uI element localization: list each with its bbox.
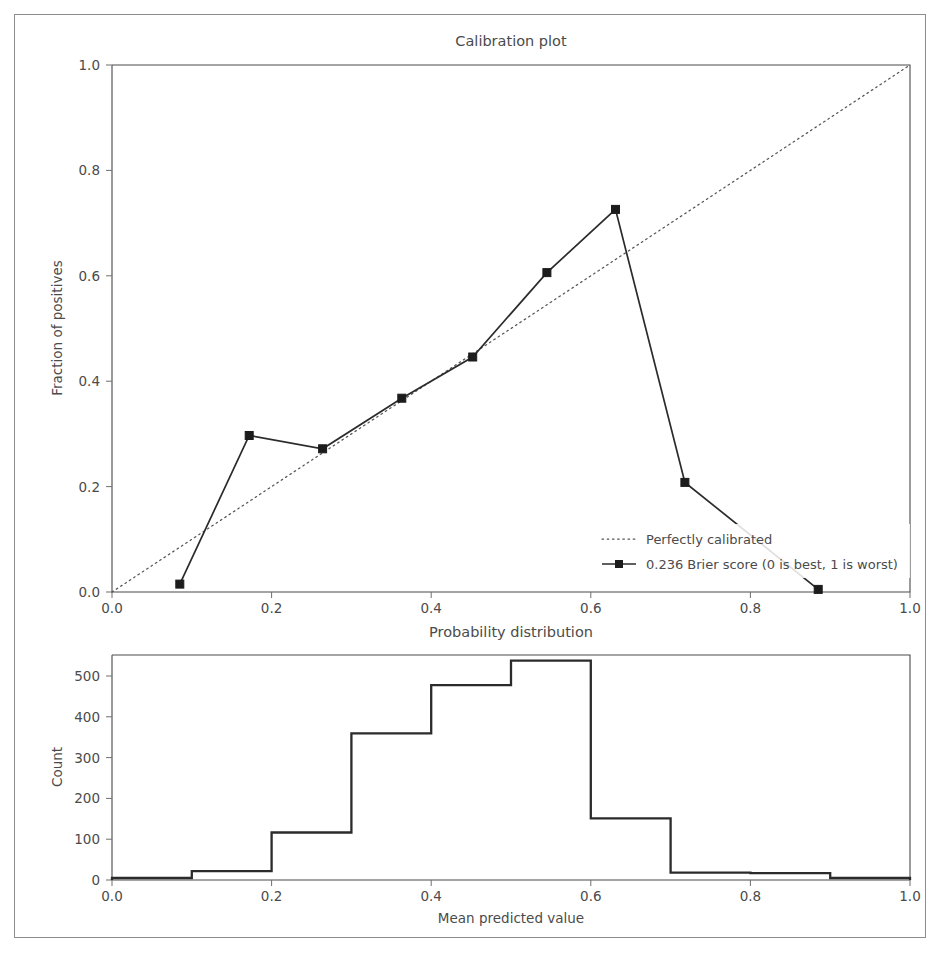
histogram-ylabel: Count bbox=[49, 747, 65, 787]
histogram-xlabel: Mean predicted value bbox=[438, 910, 584, 926]
probability-histogram-steps bbox=[112, 661, 910, 880]
histogram-ytick-3: 300 bbox=[74, 750, 100, 766]
calibration-xtick-5: 1.0 bbox=[899, 600, 920, 616]
histogram-axes-frame bbox=[112, 655, 910, 880]
legend-label-brier-score: 0.236 Brier score (0 is best, 1 is worst… bbox=[646, 557, 898, 572]
legend-label-perfectly-calibrated: Perfectly calibrated bbox=[646, 532, 772, 547]
histogram-ytick-5: 500 bbox=[74, 668, 100, 684]
calibration-y-ticks bbox=[106, 65, 112, 592]
calibration-ytick-3: 0.6 bbox=[79, 268, 100, 284]
probability-distribution-panel: 0 100 200 300 400 500 0.0 0.2 0.4 0.6 0.… bbox=[49, 624, 921, 926]
histogram-xtick-3: 0.6 bbox=[580, 888, 601, 904]
calibration-xtick-0: 0.0 bbox=[101, 600, 122, 616]
calibration-ytick-4: 0.8 bbox=[79, 162, 100, 178]
calibration-xtick-2: 0.4 bbox=[420, 600, 441, 616]
histogram-xtick-2: 0.4 bbox=[420, 888, 441, 904]
data-point-marker bbox=[543, 269, 551, 277]
calibration-ylabel: Fraction of positives bbox=[49, 260, 65, 395]
histogram-x-ticks bbox=[112, 880, 910, 886]
data-point-marker bbox=[814, 585, 822, 593]
perfectly-calibrated-reference-line bbox=[112, 65, 910, 592]
data-point-marker bbox=[469, 353, 477, 361]
histogram-ytick-2: 200 bbox=[74, 790, 100, 806]
histogram-xtick-1: 0.2 bbox=[261, 888, 282, 904]
calibration-ytick-0: 0.0 bbox=[79, 584, 100, 600]
histogram-xtick-5: 1.0 bbox=[899, 888, 920, 904]
data-point-marker bbox=[176, 580, 184, 588]
calibration-ytick-2: 0.4 bbox=[79, 373, 100, 389]
data-point-marker bbox=[681, 478, 689, 486]
legend-swatch-brier-marker-icon bbox=[615, 560, 623, 568]
data-point-marker bbox=[319, 445, 327, 453]
calibration-xtick-4: 0.8 bbox=[740, 600, 761, 616]
histogram-xtick-4: 0.8 bbox=[740, 888, 761, 904]
calibration-x-ticks bbox=[112, 592, 910, 598]
calibration-plot-panel: 0.0 0.2 0.4 0.6 0.8 1.0 0.0 0.2 0.4 0.6 … bbox=[49, 33, 921, 616]
figure-canvas: 0.0 0.2 0.4 0.6 0.8 1.0 0.0 0.2 0.4 0.6 … bbox=[0, 0, 946, 956]
data-point-marker bbox=[398, 394, 406, 402]
histogram-ytick-0: 0 bbox=[91, 872, 100, 888]
calibration-ytick-5: 1.0 bbox=[79, 57, 100, 73]
histogram-ytick-4: 400 bbox=[74, 709, 100, 725]
calibration-figure: 0.0 0.2 0.4 0.6 0.8 1.0 0.0 0.2 0.4 0.6 … bbox=[0, 0, 946, 956]
histogram-xtick-0: 0.0 bbox=[101, 888, 122, 904]
calibration-legend: Perfectly calibrated 0.236 Brier score (… bbox=[592, 524, 910, 578]
data-point-marker bbox=[245, 432, 253, 440]
calibration-plot-title: Calibration plot bbox=[455, 33, 567, 49]
histogram-y-ticks bbox=[106, 676, 112, 880]
histogram-plot-title: Probability distribution bbox=[429, 624, 593, 640]
calibration-ytick-1: 0.2 bbox=[79, 479, 100, 495]
calibration-xtick-1: 0.2 bbox=[261, 600, 282, 616]
calibration-xtick-3: 0.6 bbox=[580, 600, 601, 616]
data-point-marker bbox=[612, 205, 620, 213]
histogram-ytick-1: 100 bbox=[74, 831, 100, 847]
